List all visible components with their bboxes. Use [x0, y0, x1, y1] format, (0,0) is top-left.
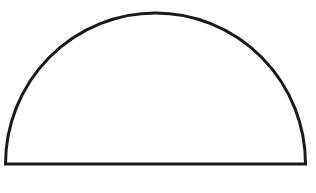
semicircle-diagram — [0, 0, 316, 193]
